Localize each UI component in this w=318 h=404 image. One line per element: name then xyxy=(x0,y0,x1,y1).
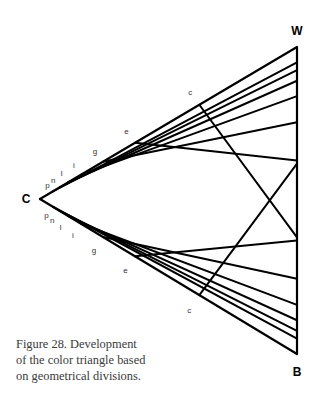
vertex-label-c: C xyxy=(22,192,31,206)
edge-c-w xyxy=(40,47,297,199)
top-edge-label-e: e xyxy=(124,127,129,136)
bottom-edge-label-g: g xyxy=(92,246,96,255)
vertex-label-b: B xyxy=(293,365,302,379)
bottom-edge-label-i: i xyxy=(72,231,74,240)
bottom-edge-label-c: c xyxy=(187,306,191,315)
caption-line-3: on geometrical divisions. xyxy=(16,368,145,384)
caption-line-1: Figure 28. Development xyxy=(16,336,145,352)
figure-caption: Figure 28. Development of the color tria… xyxy=(16,336,145,384)
bottom-edge-label-l: l xyxy=(60,223,62,232)
edge-c-b xyxy=(40,199,297,354)
top-edge-label-l: l xyxy=(61,169,63,178)
top-edge-label-p: p xyxy=(45,181,50,190)
bottom-edge-label-n: n xyxy=(50,216,54,225)
top-edge-label-g: g xyxy=(93,147,97,156)
vertex-label-w: W xyxy=(291,24,303,38)
caption-line-2: of the color triangle based xyxy=(16,352,145,368)
division-line-top-6 xyxy=(53,62,297,191)
division-line-bottom-6 xyxy=(53,207,297,339)
top-edge-label-n: n xyxy=(51,176,55,185)
top-edge-label-i: i xyxy=(73,161,75,170)
bottom-edge-label-p: p xyxy=(44,211,49,220)
bottom-edge-label-e: e xyxy=(123,266,128,275)
top-edge-label-c: c xyxy=(188,88,192,97)
